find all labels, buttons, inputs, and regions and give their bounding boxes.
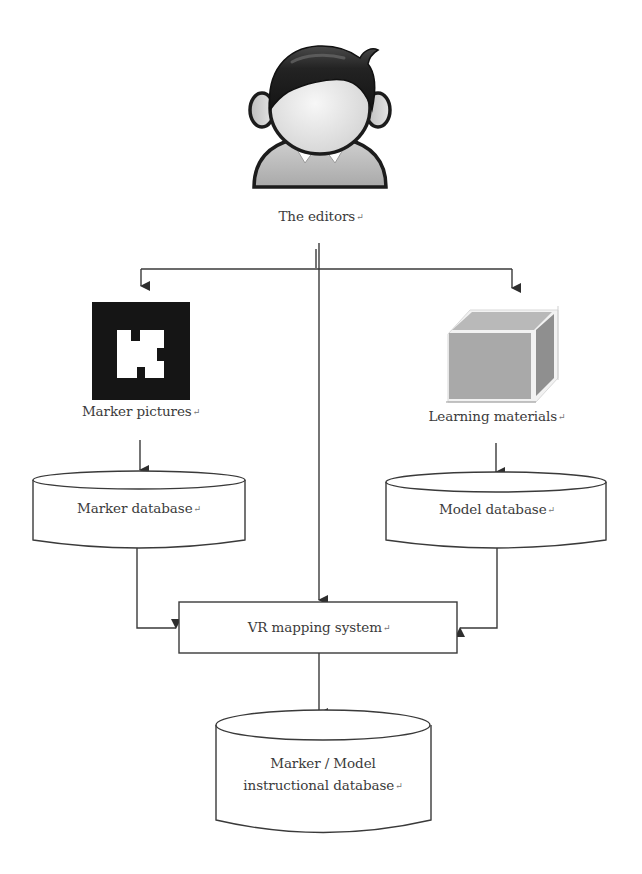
diagram-canvas bbox=[0, 0, 642, 874]
connector-marker-db-to-vr bbox=[137, 548, 176, 628]
model-database-label-text: Model database bbox=[439, 501, 547, 517]
return-mark: ↵ bbox=[356, 212, 363, 222]
editors-label-text: The editors bbox=[278, 208, 355, 224]
return-mark: ↵ bbox=[193, 407, 200, 417]
return-mark: ↵ bbox=[548, 505, 555, 515]
marker-pictures-label: Marker pictures↵ bbox=[82, 403, 200, 419]
return-mark: ↵ bbox=[558, 412, 565, 422]
model-database-label: Model database↵ bbox=[439, 501, 555, 517]
instructional-database-label: Marker / Model instructional database↵ bbox=[243, 752, 402, 797]
editors-label: The editors↵ bbox=[278, 208, 363, 224]
instructional-database-label-line1: Marker / Model bbox=[243, 752, 402, 774]
learning-materials-label-text: Learning materials bbox=[428, 408, 557, 424]
editor-person-icon bbox=[250, 46, 390, 187]
marker-pictures-label-text: Marker pictures bbox=[82, 403, 192, 419]
vr-mapping-system-label-text: VR mapping system bbox=[248, 619, 382, 635]
return-mark: ↵ bbox=[395, 781, 402, 791]
marker-database-label-text: Marker database bbox=[77, 500, 193, 516]
learning-materials-cube-icon bbox=[446, 306, 558, 402]
return-mark: ↵ bbox=[194, 504, 201, 514]
return-mark: ↵ bbox=[383, 623, 390, 633]
learning-materials-label: Learning materials↵ bbox=[428, 408, 565, 424]
connector-model-db-to-vr bbox=[460, 548, 497, 628]
instructional-database-label-line2: instructional database bbox=[243, 777, 394, 793]
marker-picture-icon bbox=[92, 302, 190, 400]
vr-mapping-system-label: VR mapping system↵ bbox=[248, 619, 391, 635]
marker-database-label: Marker database↵ bbox=[77, 500, 201, 516]
